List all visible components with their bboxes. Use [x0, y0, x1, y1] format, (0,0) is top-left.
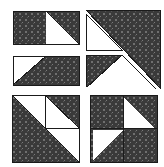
block-bottom-left	[12, 95, 79, 162]
dark-rectangle-left-unit	[13, 11, 46, 44]
dark-rectangle-right-unit	[46, 56, 79, 85]
block-bottom-right	[90, 95, 157, 162]
quilt-block-diagram	[0, 0, 164, 167]
block-top-left-lower	[13, 56, 79, 85]
diagram-canvas	[0, 0, 164, 167]
block-top-left-upper	[13, 11, 79, 44]
